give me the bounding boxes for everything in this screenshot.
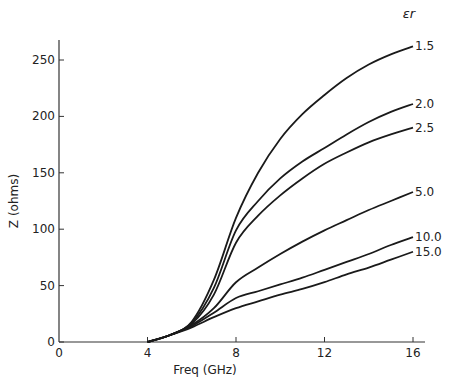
series-label: 10.0 bbox=[415, 230, 442, 244]
y-tick-label: 150 bbox=[32, 166, 55, 180]
x-tick-label: 16 bbox=[405, 346, 420, 360]
axes bbox=[59, 40, 425, 342]
y-tick-label: 50 bbox=[40, 279, 55, 293]
impedance-vs-frequency-chart: 050100150200250 0481216 Z (ohms) Freq (G… bbox=[0, 0, 449, 388]
series-labels: 1.52.02.55.010.015.0 bbox=[415, 39, 442, 258]
x-tick-label: 0 bbox=[55, 346, 63, 360]
y-axis-label: Z (ohms) bbox=[7, 174, 21, 228]
series-label: 5.0 bbox=[415, 185, 434, 199]
y-tick-label: 200 bbox=[32, 109, 55, 123]
series-label: 1.5 bbox=[415, 39, 434, 53]
x-axis-label: Freq (GHz) bbox=[173, 363, 237, 377]
series-label: 15.0 bbox=[415, 245, 442, 259]
curve-er-2-5 bbox=[148, 128, 414, 342]
y-tick-label: 100 bbox=[32, 222, 55, 236]
legend-title: εr bbox=[403, 6, 417, 21]
curve-er-15-0 bbox=[148, 252, 414, 342]
series-label: 2.0 bbox=[415, 97, 434, 111]
curves bbox=[148, 46, 414, 342]
x-tick-label: 4 bbox=[144, 346, 152, 360]
y-tick-label: 0 bbox=[47, 335, 55, 349]
x-ticks: 0481216 bbox=[55, 337, 420, 360]
series-label: 2.5 bbox=[415, 121, 434, 135]
x-tick-label: 12 bbox=[317, 346, 332, 360]
x-tick-label: 8 bbox=[232, 346, 240, 360]
y-tick-label: 250 bbox=[32, 53, 55, 67]
